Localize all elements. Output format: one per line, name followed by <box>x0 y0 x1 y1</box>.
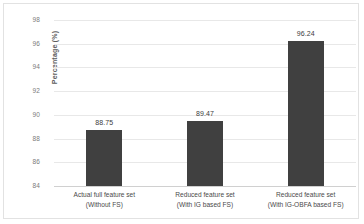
bar[interactable] <box>86 130 122 186</box>
chart-frame: Percentage (%) 9896949290888684 88.7589.… <box>3 3 359 219</box>
bar[interactable] <box>187 121 223 186</box>
y-axis-tick-label: 90 <box>16 112 40 119</box>
gridline <box>54 20 356 21</box>
x-axis-category-line: (Without FS) <box>55 200 154 210</box>
x-axis-category-labels: Actual full feature set(Without FS)Reduc… <box>54 190 356 222</box>
y-axis-tick-label: 92 <box>16 88 40 95</box>
bar[interactable] <box>288 41 324 186</box>
x-axis-category-line: Reduced feature set <box>156 190 255 200</box>
gridline <box>54 186 356 187</box>
bar-value-label: 96.24 <box>276 30 336 37</box>
bar-value-label: 89.47 <box>175 110 235 117</box>
x-axis-category-line: Actual full feature set <box>55 190 154 200</box>
y-axis-tick-label: 94 <box>16 64 40 71</box>
y-axis-tick-label: 88 <box>16 135 40 142</box>
bar-value-label: 88.75 <box>74 119 134 126</box>
y-axis-tick-label: 86 <box>16 159 40 166</box>
y-axis-tick-label: 96 <box>16 40 40 47</box>
x-axis-category-label: Reduced feature set(With IG based FS) <box>155 190 256 222</box>
plot-area: 88.7589.4796.24 <box>54 20 356 186</box>
x-axis-category-line: (With IG-OBFA based FS) <box>256 200 355 210</box>
x-axis-category-line: (With IG based FS) <box>156 200 255 210</box>
x-axis-category-label: Reduced feature set(With IG-OBFA based F… <box>255 190 356 222</box>
y-axis-tick-label: 98 <box>16 17 40 24</box>
x-axis-category-line: Reduced feature set <box>256 190 355 200</box>
x-axis-category-label: Actual full feature set(Without FS) <box>54 190 155 222</box>
y-axis-tick-label: 84 <box>16 183 40 190</box>
